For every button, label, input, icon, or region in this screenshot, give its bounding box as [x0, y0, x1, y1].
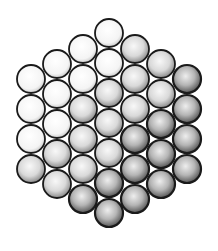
wire-circle — [173, 155, 201, 183]
wire-circle — [69, 185, 97, 213]
wire-circle — [95, 79, 123, 107]
wire-circle — [17, 65, 45, 93]
wire-circle — [95, 139, 123, 167]
wire-circle — [17, 125, 45, 153]
wire-circle — [173, 95, 201, 123]
wire-circle — [95, 169, 123, 197]
wire-circle — [147, 50, 175, 78]
wire-circle — [69, 125, 97, 153]
wire-circle — [147, 80, 175, 108]
wire-circle — [43, 110, 71, 138]
wire-circle — [95, 49, 123, 77]
wire-circle — [17, 155, 45, 183]
wire-circle — [69, 95, 97, 123]
wire-circle — [69, 155, 97, 183]
wire-circle — [147, 110, 175, 138]
strand-diagram — [0, 0, 218, 251]
wire-circle — [69, 35, 97, 63]
wire-circle — [173, 125, 201, 153]
wire-circle — [43, 80, 71, 108]
wire-circle — [121, 185, 149, 213]
wire-circle — [121, 65, 149, 93]
wire-circle — [17, 95, 45, 123]
wire-circle — [121, 125, 149, 153]
circle-group — [17, 19, 201, 227]
wire-circle — [69, 65, 97, 93]
wire-circle — [43, 170, 71, 198]
wire-circle — [121, 35, 149, 63]
wire-circle — [121, 155, 149, 183]
wire-circle — [121, 95, 149, 123]
wire-circle — [95, 199, 123, 227]
wire-circle — [147, 140, 175, 168]
wire-circle — [43, 50, 71, 78]
circle-packing-diagram — [0, 0, 218, 251]
wire-circle — [95, 19, 123, 47]
wire-circle — [147, 170, 175, 198]
wire-circle — [43, 140, 71, 168]
wire-circle — [173, 65, 201, 93]
wire-circle — [95, 109, 123, 137]
